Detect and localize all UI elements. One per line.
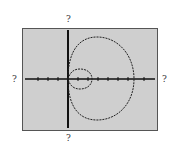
graph-plot <box>0 0 179 148</box>
label-right: ? <box>162 75 167 84</box>
label-bottom: ? <box>66 134 71 143</box>
label-top: ? <box>66 15 71 24</box>
label-left: ? <box>12 75 17 84</box>
